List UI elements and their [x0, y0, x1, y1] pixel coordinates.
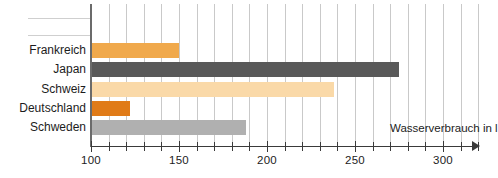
category-label: Frankreich	[0, 41, 86, 60]
x-axis-major-tick	[267, 141, 268, 152]
empty-row-rule	[28, 35, 90, 36]
x-axis-minor-tick	[337, 142, 338, 151]
x-axis-minor-tick	[320, 142, 321, 151]
x-axis-minor-tick	[144, 142, 145, 151]
x-axis-major-tick	[443, 141, 444, 152]
x-axis-minor-tick	[461, 142, 462, 151]
x-axis-minor-tick	[425, 142, 426, 151]
x-axis-minor-tick	[390, 142, 391, 151]
x-axis-tick-label: 150	[169, 154, 189, 166]
bar	[91, 101, 130, 116]
x-axis-minor-tick	[232, 142, 233, 151]
x-axis-major-tick	[179, 141, 180, 152]
bar-row: Frankreich	[0, 41, 496, 60]
category-label: Japan	[0, 60, 86, 79]
x-axis-minor-tick	[109, 142, 110, 151]
category-label: Deutschland	[0, 99, 86, 118]
x-axis-minor-tick	[478, 142, 479, 151]
bar-row: Schweiz	[0, 80, 496, 99]
bar	[91, 82, 334, 97]
bar	[91, 62, 399, 77]
x-axis-minor-tick	[161, 142, 162, 151]
x-axis-major-tick	[91, 141, 92, 152]
x-axis-minor-tick	[408, 142, 409, 151]
x-axis-title: Wasserverbrauch in l	[390, 122, 498, 134]
x-axis-major-tick	[355, 141, 356, 152]
bar	[91, 120, 246, 135]
x-axis-minor-tick	[249, 142, 250, 151]
x-axis-minor-tick	[197, 142, 198, 151]
empty-row-rule	[28, 18, 90, 19]
bar	[91, 43, 179, 58]
x-axis-line	[91, 146, 474, 147]
x-axis-tick-label: 250	[345, 154, 365, 166]
bar-row: Deutschland	[0, 99, 496, 118]
category-label: Schweden	[0, 118, 86, 137]
x-axis-minor-tick	[373, 142, 374, 151]
x-axis-minor-tick	[285, 142, 286, 151]
x-axis-minor-tick	[302, 142, 303, 151]
x-axis-minor-tick	[214, 142, 215, 151]
x-axis-tick-label: 200	[257, 154, 277, 166]
y-axis-line	[90, 4, 92, 147]
bar-row: Japan	[0, 60, 496, 79]
x-axis-tick-label: 100	[81, 154, 101, 166]
category-label: Schweiz	[0, 80, 86, 99]
x-axis-tick-label: 300	[433, 154, 453, 166]
x-axis-minor-tick	[126, 142, 127, 151]
